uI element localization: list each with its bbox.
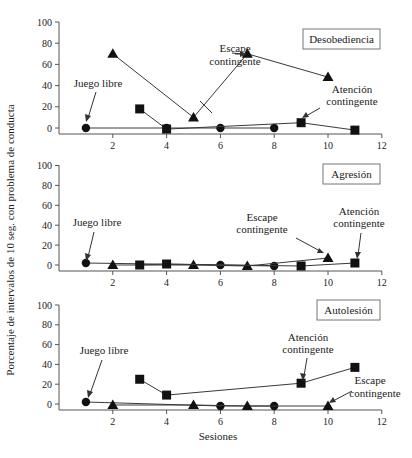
y-tick-label: 80	[42, 319, 52, 330]
x-tick-label: 10	[323, 140, 333, 151]
x-tick-label: 10	[323, 416, 333, 427]
x-tick-label: 8	[272, 277, 277, 288]
y-tick-label: 20	[42, 240, 52, 251]
panel-title-desobediencia: Desobediencia	[303, 29, 380, 49]
marker-square	[350, 126, 359, 135]
annotation-juego-libre-3: Juego libre	[80, 344, 129, 398]
svg-text:contingente: contingente	[282, 343, 333, 355]
annotation-juego-libre-2: Juego libre	[73, 216, 122, 261]
x-tick-label: 4	[164, 277, 169, 288]
marker-circle	[82, 398, 90, 406]
annotation-juego-libre-1: Juego libre	[74, 77, 123, 122]
marker-triangle	[323, 253, 334, 263]
svg-text:Autolesión: Autolesión	[324, 304, 373, 316]
y-tick-label: 40	[42, 80, 52, 91]
marker-square	[162, 125, 171, 134]
panel-title-autolesion: Autolesión	[317, 300, 380, 320]
svg-text:Juego libre: Juego libre	[74, 77, 123, 89]
series-line	[140, 109, 355, 130]
svg-text:Escape: Escape	[246, 211, 277, 223]
x-tick-label: 8	[272, 416, 277, 427]
svg-text:Escape: Escape	[354, 374, 385, 386]
marker-triangle	[188, 399, 199, 409]
x-tick-label: 4	[164, 416, 169, 427]
svg-text:Atención: Atención	[332, 83, 373, 95]
marker-square	[350, 259, 359, 268]
marker-square	[297, 379, 306, 388]
marker-square	[350, 363, 359, 372]
x-tick-label: 2	[110, 416, 115, 427]
svg-text:contingente: contingente	[349, 387, 400, 399]
y-tick-label: 20	[42, 379, 52, 390]
marker-square	[135, 261, 144, 270]
annotation-escape-1: Escape contingente	[200, 42, 261, 113]
x-tick-label: 4	[164, 140, 169, 151]
x-tick-label: 10	[323, 277, 333, 288]
y-tick-label: 60	[42, 59, 52, 70]
y-tick-label: 80	[42, 38, 52, 49]
x-tick-label: 6	[218, 277, 223, 288]
annotation-atencion-2: Atención contingente	[333, 205, 384, 259]
svg-text:Escape: Escape	[219, 42, 250, 54]
y-tick-label: 100	[37, 160, 52, 171]
y-tick-label: 100	[37, 300, 52, 311]
x-tick-label: 12	[377, 277, 387, 288]
y-tick-label: 0	[47, 399, 52, 410]
y-tick-label: 0	[47, 260, 52, 271]
x-tick-label: 8	[272, 140, 277, 151]
marker-triangle	[107, 399, 118, 409]
svg-text:Desobediencia: Desobediencia	[309, 33, 374, 45]
y-axis-title: Porcentaje de intervalos de 10 seg. con …	[4, 104, 16, 375]
marker-square	[135, 104, 144, 113]
svg-text:Atención: Atención	[339, 205, 380, 217]
panel-title-agresion: Agresión	[323, 164, 380, 184]
marker-triangle	[242, 400, 253, 410]
x-tick-label: 12	[377, 416, 387, 427]
svg-text:Agresión: Agresión	[331, 168, 372, 180]
marker-square	[297, 261, 306, 270]
marker-square	[162, 260, 171, 269]
multi-panel-line-chart: Porcentaje de intervalos de 10 seg. con …	[0, 0, 412, 458]
svg-text:contingente: contingente	[333, 217, 384, 229]
x-tick-label: 6	[218, 416, 223, 427]
svg-text:contingente: contingente	[326, 95, 377, 107]
y-tick-label: 60	[42, 339, 52, 350]
y-tick-label: 100	[37, 17, 52, 28]
svg-text:contingente: contingente	[236, 223, 287, 235]
svg-text:Juego libre: Juego libre	[80, 344, 129, 356]
svg-text:contingente: contingente	[209, 55, 260, 67]
series-line	[140, 367, 355, 395]
annotation-escape-2: Escape contingente	[236, 211, 324, 253]
marker-triangle	[107, 260, 118, 270]
y-tick-label: 80	[42, 180, 52, 191]
series-line	[113, 405, 328, 406]
y-tick-label: 20	[42, 101, 52, 112]
x-tick-label: 2	[110, 140, 115, 151]
annotation-atencion-3: Atención contingente	[282, 331, 333, 381]
x-tick-label: 6	[218, 140, 223, 151]
x-axis-title: Sesiones	[199, 430, 238, 442]
marker-square	[297, 118, 306, 127]
x-tick-label: 12	[377, 140, 387, 151]
svg-text:Juego libre: Juego libre	[73, 216, 122, 228]
marker-circle	[270, 124, 278, 132]
y-tick-label: 0	[47, 123, 52, 134]
marker-circle	[216, 124, 224, 132]
marker-square	[162, 391, 171, 400]
x-tick-label: 2	[110, 277, 115, 288]
marker-square	[135, 375, 144, 384]
annotation-escape-3: Escape contingente	[329, 374, 401, 403]
svg-text:Atención: Atención	[288, 331, 329, 343]
marker-circle	[82, 124, 90, 132]
y-tick-label: 60	[42, 200, 52, 211]
y-tick-label: 40	[42, 359, 52, 370]
marker-triangle	[107, 48, 118, 58]
y-tick-label: 40	[42, 220, 52, 231]
annotation-atencion-1: Atención contingente	[302, 83, 378, 118]
